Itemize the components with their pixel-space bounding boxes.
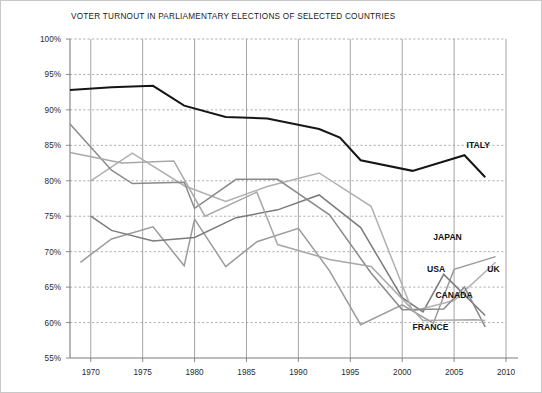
series-line-usa [91,195,485,316]
chart-figure: VOTER TURNOUT IN PARLIAMENTARY ELECTIONS… [0,0,542,393]
x-tick-label: 1990 [289,368,308,377]
x-axis-tick-labels: 197019751980198519901995200020052010 [82,358,516,377]
series-line-italy [70,86,485,177]
x-tick-label: 2010 [497,368,516,377]
series-label-uk: UK [487,264,500,274]
y-tick-label: 75% [45,212,61,221]
series-label-canada: CANADA [435,290,472,300]
x-tick-label: 2005 [445,368,464,377]
y-axis-tick-labels: 55%60%65%70%75%80%85%90%95%100% [40,35,70,363]
series-line-canada [70,124,485,327]
line-chart-plot: 55%60%65%70%75%80%85%90%95%100% 19701975… [1,1,542,393]
series-label-japan: JAPAN [433,232,462,242]
y-tick-label: 70% [45,248,61,257]
y-tick-label: 100% [40,35,61,44]
x-tick-label: 1975 [134,368,153,377]
y-tick-label: 60% [45,319,61,328]
series-end-labels: ITALYJAPANUSAUKCANADAFRANCE [413,140,501,332]
y-tick-label: 85% [45,141,61,150]
y-tick-label: 55% [45,354,61,363]
x-tick-label: 1980 [185,368,204,377]
x-tick-label: 1995 [341,368,360,377]
y-tick-label: 65% [45,283,61,292]
y-tick-label: 80% [45,177,61,186]
x-tick-label: 1985 [237,368,256,377]
series-label-usa: USA [427,264,445,274]
series-label-france: FRANCE [413,322,449,332]
x-tick-label: 1970 [82,368,101,377]
series-label-italy: ITALY [467,140,491,150]
y-tick-label: 95% [45,70,61,79]
data-series-lines [70,86,496,327]
y-tick-label: 90% [45,106,61,115]
x-tick-label: 2000 [393,368,412,377]
